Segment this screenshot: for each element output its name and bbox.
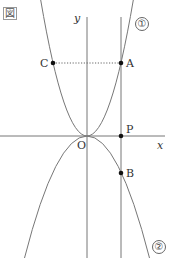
y-axis-label: y bbox=[74, 13, 80, 24]
point-a bbox=[119, 61, 124, 66]
point-p-label: P bbox=[126, 124, 133, 135]
point-c bbox=[51, 61, 56, 66]
point-a-label: A bbox=[126, 58, 134, 69]
origin-label: O bbox=[77, 140, 86, 151]
point-b bbox=[119, 171, 124, 176]
curve-1-label: ① bbox=[135, 17, 149, 31]
coordinate-diagram bbox=[0, 0, 175, 258]
curve-2-label: ② bbox=[152, 240, 166, 254]
x-axis-label: x bbox=[157, 140, 163, 151]
point-c-label: C bbox=[40, 58, 48, 69]
point-p bbox=[119, 134, 124, 139]
figure-label: 図 bbox=[3, 7, 17, 20]
point-b-label: B bbox=[126, 168, 134, 179]
